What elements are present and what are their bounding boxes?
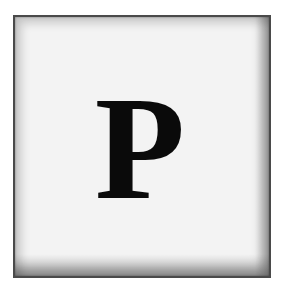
letter-tile: P: [13, 15, 271, 278]
tile-letter: P: [15, 17, 269, 276]
